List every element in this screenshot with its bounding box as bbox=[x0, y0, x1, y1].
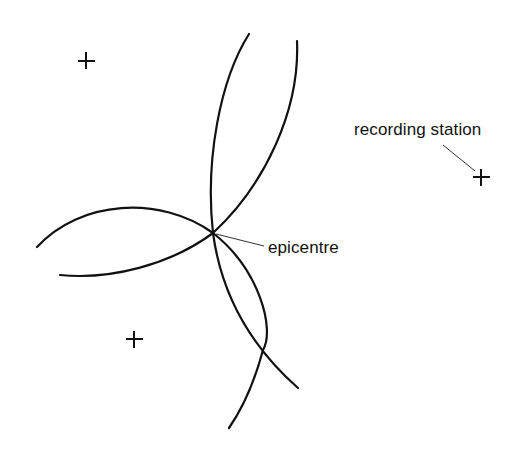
station-marker-right bbox=[473, 169, 490, 186]
epicentre-label: epicentre bbox=[268, 239, 339, 256]
station-marker-bottom-left bbox=[126, 331, 143, 348]
epicentre-leader-line bbox=[216, 234, 264, 246]
recording-station-leader-line bbox=[443, 145, 475, 171]
distance-arc-right-station bbox=[211, 34, 298, 388]
epicentre-diagram bbox=[0, 0, 528, 453]
distance-arc-top-left-station bbox=[60, 41, 297, 276]
distance-arc-bottom-left-station bbox=[37, 208, 267, 428]
station-marker-top-left bbox=[78, 52, 95, 69]
recording-station-label: recording station bbox=[354, 121, 481, 138]
